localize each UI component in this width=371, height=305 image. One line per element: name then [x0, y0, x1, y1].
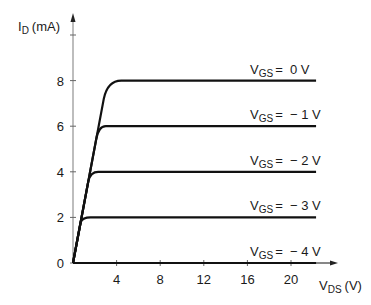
curve-label-vgs-2: VGS= − 2 V	[250, 153, 321, 170]
curve-label-vgs-0: VGS= 0 V	[250, 62, 310, 79]
curve-label-vgs-4: VGS= − 4 V	[250, 244, 321, 261]
labels: 0246848121620ID(mA)VDS(V)VGS= 0 VVGS= − …	[18, 19, 362, 295]
x-tick-label: 8	[157, 272, 164, 287]
x-axis-title: VDS(V)	[319, 278, 362, 295]
curve-label-vgs-1: VGS= − 1 V	[250, 107, 321, 124]
x-tick-label: 20	[284, 272, 298, 287]
drain-characteristics-chart: 0246848121620ID(mA)VDS(V)VGS= 0 VVGS= − …	[0, 0, 371, 305]
axes	[70, 13, 338, 266]
x-tick-label: 16	[240, 272, 254, 287]
y-tick-label: 6	[57, 119, 64, 134]
curve-vgs-1	[73, 126, 316, 263]
y-tick-label: 8	[57, 74, 64, 89]
curve-label-vgs-3: VGS= − 3 V	[250, 198, 321, 215]
x-tick-label: 12	[197, 272, 211, 287]
y-tick-label: 2	[57, 210, 64, 225]
x-axis-arrow-icon	[330, 261, 338, 266]
y-tick-label: 0	[57, 256, 64, 271]
y-tick-label: 4	[57, 165, 64, 180]
y-axis-title: ID(mA)	[18, 19, 60, 36]
y-axis-arrow-icon	[71, 13, 76, 22]
x-tick-label: 4	[113, 272, 120, 287]
